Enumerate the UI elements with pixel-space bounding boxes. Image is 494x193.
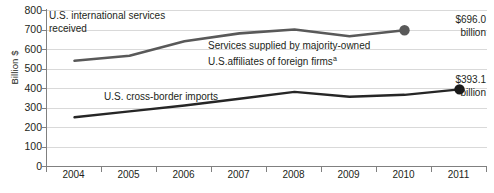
- footnote-marker-a: a: [333, 55, 337, 62]
- line-chart: Billion $ 800 700 600 500 400 300 200 10…: [0, 0, 494, 193]
- affiliates-label-text: Services supplied by majority-owned U.S.…: [208, 40, 370, 67]
- imports-label: U.S. cross-border imports: [104, 91, 218, 104]
- upper-series-title: U.S. international services received: [49, 10, 165, 35]
- affiliates-label: Services supplied by majority-owned U.S.…: [208, 40, 370, 68]
- lower-value-callout: $393.1 billion: [408, 74, 486, 99]
- upper-value-callout: $696.0 billion: [408, 14, 486, 39]
